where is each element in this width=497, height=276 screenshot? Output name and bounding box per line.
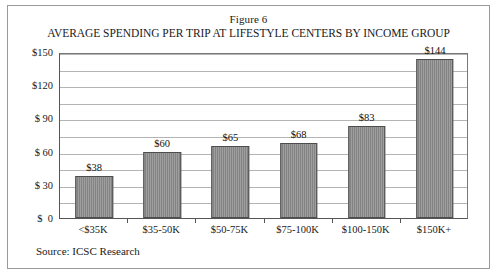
y-axis-tick-label: $ 90 [35,113,53,125]
y-axis-tick-label: $ 0 [37,213,53,225]
bar-value-label: $65 [223,132,239,144]
y-axis-tick-label: $150 [32,47,53,59]
x-axis-tick-mark [195,219,196,223]
source-note: Source: ICSC Research [36,244,140,258]
bar-value-label: $68 [291,129,307,141]
bar-slot: $38 [60,54,128,218]
x-axis: <$35K$35-50K$50-75K$75-100K$100-150K$150… [59,219,468,239]
bar-value-label: $60 [154,138,170,150]
figure-frame: Figure 6 AVERAGE SPENDING PER TRIP AT LI… [7,5,490,269]
x-axis-category-label: $100-150K [342,224,390,236]
bar-slot: $83 [333,54,401,218]
x-axis-category-label: $150K+ [417,224,452,236]
bar-chart: $150$120$ 90$ 60$ 30$ 0 $38$60$65$68$83$… [8,6,491,270]
y-axis-tick-label: $120 [32,80,53,92]
x-axis-category-label: $50-75K [211,224,248,236]
bar-slot: $65 [196,54,264,218]
y-axis: $150$120$ 90$ 60$ 30$ 0 [8,53,56,219]
plot-area: $38$60$65$68$83$144 [59,53,468,219]
x-axis-category-label: $75-100K [276,224,319,236]
y-axis-tick-label: $ 30 [35,180,53,192]
bar[interactable] [75,176,112,218]
x-axis-category-label: <$35K [78,224,107,236]
x-axis-tick-mark [400,219,401,223]
bar[interactable] [348,126,385,218]
bars-layer: $38$60$65$68$83$144 [60,54,467,218]
bar[interactable] [280,143,317,218]
bar-slot: $144 [401,54,469,218]
bar[interactable] [416,59,453,218]
bar[interactable] [143,152,180,218]
bar[interactable] [212,146,249,218]
x-axis-tick-mark [332,219,333,223]
x-axis-tick-mark [264,219,265,223]
bar-slot: $60 [128,54,196,218]
y-axis-tick-label: $ 60 [35,147,53,159]
x-axis-category-label: $35-50K [143,224,180,236]
bar-value-label: $144 [424,45,445,57]
bar-slot: $68 [265,54,333,218]
bar-value-label: $83 [359,112,375,124]
x-axis-tick-mark [127,219,128,223]
bar-value-label: $38 [86,162,102,174]
